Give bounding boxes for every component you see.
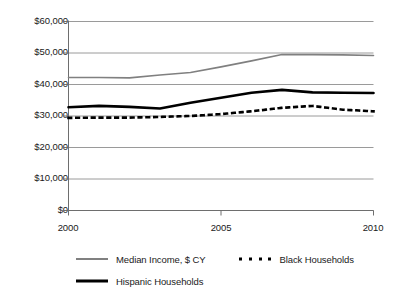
- legend-item-black-households: Black Households: [239, 253, 353, 265]
- solid-black-line-icon: [76, 275, 108, 287]
- legend-row-top: Median Income, $ CY Black Households: [0, 248, 395, 270]
- legend-item-median-income: Median Income, $ CY: [76, 253, 205, 265]
- legend-label: Black Households: [279, 254, 353, 265]
- chart-legend: Median Income, $ CY Black Households His…: [0, 248, 395, 292]
- legend-row-bottom: Hispanic Households: [0, 270, 395, 292]
- legend-item-hispanic-households: Hispanic Households: [76, 275, 203, 287]
- legend-label: Median Income, $ CY: [116, 254, 205, 265]
- series-line-3: [69, 90, 374, 109]
- solid-gray-line-icon: [76, 253, 108, 265]
- dotted-black-line-icon: [239, 253, 271, 265]
- legend-label: Hispanic Households: [116, 276, 203, 287]
- series-line-1: [69, 55, 374, 78]
